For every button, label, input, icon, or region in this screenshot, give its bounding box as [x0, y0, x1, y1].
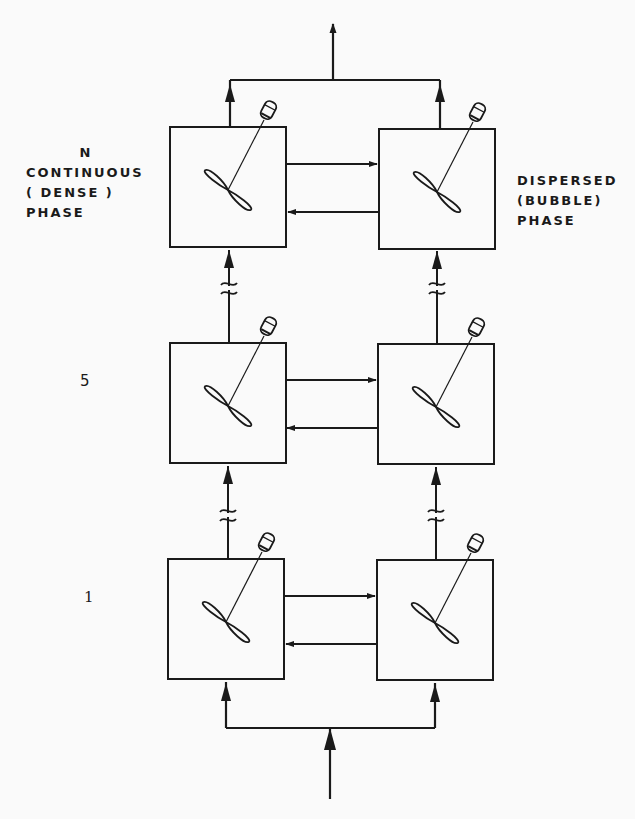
stage-n-label: N — [26, 143, 146, 163]
inlet-arrow — [221, 682, 440, 799]
stirred-tank-icon — [379, 101, 495, 249]
phase-label-line: PHASE — [26, 203, 146, 223]
continuous-label-line: CONTINUOUS — [26, 163, 146, 183]
bubble-label-line: (BUBBLE) — [517, 191, 617, 211]
dispersed-label-line: DISPERSED — [517, 171, 617, 191]
stirred-tank-icon — [170, 99, 286, 247]
stage-1-label: 1 — [84, 588, 94, 606]
outlet-arrow — [225, 24, 445, 129]
interstage-flow-lower — [219, 466, 445, 560]
staged-reactor-diagram — [0, 0, 635, 819]
stage-5 — [170, 315, 494, 464]
stage-n — [170, 99, 495, 249]
stirred-tank-icon — [168, 531, 284, 679]
stage-1 — [168, 531, 493, 680]
phase-label-line: PHASE — [517, 211, 617, 231]
dense-label-line: ( DENSE ) — [26, 183, 146, 203]
interstage-flow-upper — [220, 250, 446, 344]
continuous-phase-label: N CONTINUOUS ( DENSE ) PHASE — [26, 143, 146, 223]
dispersed-phase-label: DISPERSED (BUBBLE) PHASE — [517, 171, 617, 231]
stage-5-label: 5 — [80, 372, 90, 390]
